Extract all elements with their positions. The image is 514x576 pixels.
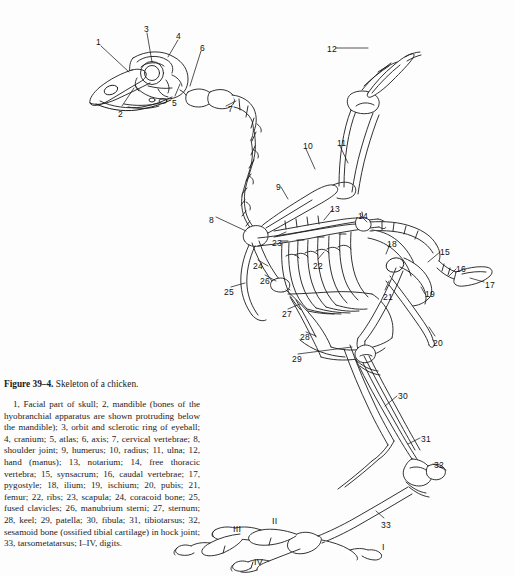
callout-19: 19 xyxy=(425,290,435,299)
foot-group xyxy=(174,527,382,572)
callout-digit-IV: IV xyxy=(254,558,263,567)
callout-2: 2 xyxy=(118,110,123,119)
callout-1: 1 xyxy=(96,38,101,47)
callout-30: 30 xyxy=(398,392,408,401)
figure-number: Figure 39–4. xyxy=(4,379,53,389)
callout-21: 21 xyxy=(383,293,393,302)
figure-title-text: Skeleton of a chicken. xyxy=(56,379,139,389)
callout-5: 5 xyxy=(172,99,177,108)
callout-14: 14 xyxy=(358,212,368,221)
callout-24: 24 xyxy=(253,262,263,271)
callout-digit-II: II xyxy=(272,517,277,526)
callout-digit-I: I xyxy=(382,543,385,552)
callout-18: 18 xyxy=(387,240,397,249)
callout-26: 26 xyxy=(260,277,270,286)
callout-25: 25 xyxy=(224,288,234,297)
callout-29: 29 xyxy=(292,355,302,364)
callout-16: 16 xyxy=(456,265,466,274)
callout-22: 22 xyxy=(313,262,323,271)
callout-11: 11 xyxy=(337,139,346,148)
callout-28: 28 xyxy=(300,333,310,342)
hindlimb-group xyxy=(318,268,445,543)
callout-8: 8 xyxy=(209,216,214,225)
figure-caption: Figure 39–4. Skeleton of a chicken. 1, F… xyxy=(4,378,200,550)
callout-27: 27 xyxy=(282,310,292,319)
callout-32: 32 xyxy=(434,461,444,470)
callout-12: 12 xyxy=(327,45,337,54)
callout-3: 3 xyxy=(144,25,149,34)
vertebral-column-group xyxy=(274,212,492,286)
callout-10: 10 xyxy=(303,142,313,151)
figure-legend-text: 1, Facial part of skull; 2, mandible (bo… xyxy=(4,399,200,550)
figure-caption-title: Figure 39–4. Skeleton of a chicken. xyxy=(4,378,200,390)
callout-digit-III: III xyxy=(233,525,241,534)
callout-7: 7 xyxy=(228,105,233,114)
callout-33: 33 xyxy=(381,521,391,530)
callout-13: 13 xyxy=(330,205,340,214)
ribcage-group xyxy=(281,232,368,314)
callout-20: 20 xyxy=(433,339,443,348)
cervical-vertebrae-group xyxy=(186,89,262,236)
figure-container: 1 2 3 4 5 6 7 8 9 10 11 12 13 14 15 16 1… xyxy=(0,0,514,576)
callout-23: 23 xyxy=(272,239,282,248)
sternum-group xyxy=(286,290,393,360)
callout-15: 15 xyxy=(440,248,450,257)
callout-9: 9 xyxy=(276,183,281,192)
callout-4: 4 xyxy=(176,32,181,41)
callout-17: 17 xyxy=(485,281,495,290)
callout-6: 6 xyxy=(200,44,205,53)
callout-31: 31 xyxy=(421,435,431,444)
